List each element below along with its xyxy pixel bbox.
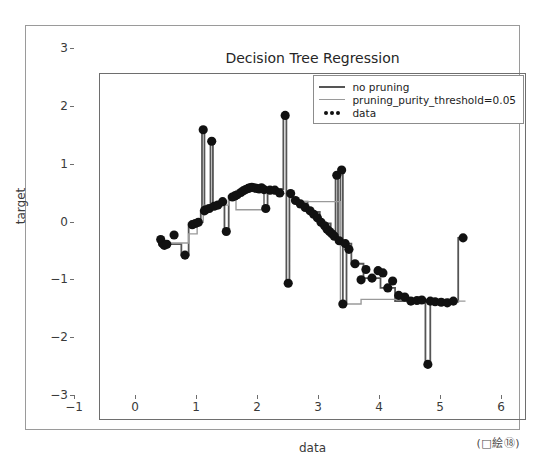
- data-point: [361, 265, 370, 274]
- x-tick-mark: [74, 395, 75, 399]
- legend-item: pruning_purity_threshold=0.05: [319, 93, 516, 106]
- data-point: [275, 188, 284, 197]
- data-point: [338, 299, 347, 308]
- data-point: [199, 125, 208, 134]
- data-point: [261, 204, 270, 213]
- y-tick-mark: [70, 279, 74, 280]
- y-tick-label: 0: [42, 215, 68, 229]
- y-tick-mark: [70, 222, 74, 223]
- data-point: [194, 218, 203, 227]
- legend-swatch-dots-icon: [319, 106, 345, 119]
- data-point: [458, 233, 467, 242]
- chart-title: Decision Tree Regression: [99, 50, 526, 66]
- y-tick-label: −1: [42, 272, 68, 286]
- data-point: [350, 259, 359, 268]
- y-tick-mark: [70, 164, 74, 165]
- legend-item: data: [319, 106, 516, 119]
- figure-frame: Decision Tree Regression target data −3−…: [25, 25, 520, 430]
- data-point: [180, 251, 189, 260]
- y-tick-label: 3: [42, 41, 68, 55]
- data-point: [344, 245, 353, 254]
- data-point: [222, 227, 231, 236]
- figure-caption: (□絵⑱): [0, 434, 520, 450]
- data-point: [207, 137, 216, 146]
- data-point: [337, 165, 346, 174]
- y-tick-label: 2: [42, 99, 68, 113]
- legend-label: no pruning: [352, 81, 409, 93]
- data-point: [388, 276, 397, 285]
- y-tick-label: −2: [42, 330, 68, 344]
- y-tick-mark: [70, 48, 74, 49]
- data-point: [367, 274, 376, 283]
- data-point: [449, 297, 458, 306]
- chart-legend: no pruning pruning_purity_threshold=0.05…: [313, 75, 524, 124]
- plot-axes: no pruning pruning_purity_threshold=0.05…: [99, 73, 526, 420]
- data-point: [162, 240, 171, 249]
- legend-swatch-line-icon: [319, 80, 345, 93]
- data-point: [356, 275, 365, 284]
- y-tick-label: 1: [42, 157, 68, 171]
- data-point: [281, 111, 290, 120]
- legend-item: no pruning: [319, 80, 516, 93]
- legend-label: pruning_purity_threshold=0.05: [352, 94, 516, 106]
- plot-area: [100, 74, 525, 419]
- data-point: [378, 268, 387, 277]
- figure-canvas: Decision Tree Regression target data −3−…: [0, 0, 541, 473]
- series-line: [160, 115, 466, 364]
- data-point: [417, 295, 426, 304]
- y-tick-mark: [70, 337, 74, 338]
- data-point: [169, 230, 178, 239]
- legend-label: data: [352, 107, 376, 119]
- y-axis-label: target: [14, 188, 28, 225]
- data-point: [423, 360, 432, 369]
- x-tick-label: −1: [61, 400, 87, 414]
- data-point: [218, 197, 227, 206]
- legend-swatch-line-icon: [319, 93, 345, 106]
- y-tick-mark: [70, 106, 74, 107]
- data-point: [284, 279, 293, 288]
